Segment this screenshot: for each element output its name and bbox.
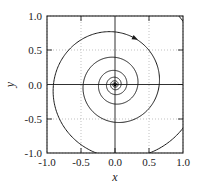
xticklabel--0.5: -0.5 (72, 156, 90, 168)
yticklabel-1.0: 1.0 (28, 10, 42, 22)
yticklabel-0.0: 0.0 (28, 79, 42, 91)
yticklabel-0.5: 0.5 (28, 44, 42, 56)
spiral-phase-portrait-chart: -1.0 -0.5 0.0 0.5 1.0 1.0 0.5 0.0 -0.5 -… (0, 0, 198, 186)
x-axis-title: x (111, 170, 118, 184)
xticklabel-0.0: 0.0 (108, 156, 122, 168)
yticklabel--1.0: -1.0 (25, 147, 43, 159)
figure-container: -1.0 -0.5 0.0 0.5 1.0 1.0 0.5 0.0 -0.5 -… (0, 0, 198, 186)
y-axis-title: y (3, 81, 17, 88)
xticklabel-1.0: 1.0 (176, 156, 190, 168)
yticklabel--0.5: -0.5 (25, 113, 43, 125)
xticklabel-0.5: 0.5 (142, 156, 156, 168)
